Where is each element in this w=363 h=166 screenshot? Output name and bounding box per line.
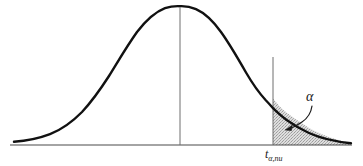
shaded-critical-region: [270, 55, 356, 147]
distribution-plot-canvas: [0, 0, 363, 166]
shaded-region-fill: [270, 55, 356, 147]
t-distribution-figure: α tα,nu: [0, 0, 363, 166]
